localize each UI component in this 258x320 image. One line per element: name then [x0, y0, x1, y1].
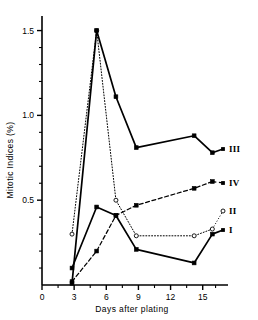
data-point-I [210, 232, 214, 236]
data-point-IV [134, 203, 138, 207]
series-line-I [72, 207, 212, 268]
x-tick-label: 3 [72, 292, 77, 302]
data-point-II [210, 227, 214, 231]
data-point-IV [95, 249, 99, 253]
series-I [70, 205, 225, 270]
series-label-IV: IV [229, 178, 240, 188]
data-point-II [134, 234, 138, 238]
data-point-III [114, 95, 118, 99]
series-label-I: I [229, 225, 233, 235]
series-line-III [72, 31, 212, 284]
x-tick-label: 0 [40, 292, 45, 302]
series-III [70, 29, 225, 286]
series-layer [70, 29, 225, 286]
data-point-I [134, 247, 138, 251]
x-tick-label: 15 [198, 292, 208, 302]
series-end-marker-IV [221, 181, 225, 185]
data-point-III [192, 134, 196, 138]
series-line-IV [72, 182, 212, 282]
data-point-II [114, 198, 118, 202]
data-point-IV [70, 280, 74, 284]
data-point-I [192, 261, 196, 265]
data-point-IV [192, 186, 196, 190]
series-leader-II [212, 211, 223, 229]
series-label-II: II [229, 206, 237, 216]
series-end-marker-II [221, 209, 225, 213]
series-IV [70, 180, 225, 284]
data-point-III [134, 146, 138, 150]
data-point-IV [114, 214, 118, 218]
x-tick-label: 9 [136, 292, 141, 302]
y-tick-label: 0.5 [22, 195, 34, 205]
y-tick-label: 1.0 [22, 110, 34, 120]
y-tick-label: 1.5 [22, 26, 34, 36]
data-point-IV [210, 180, 214, 184]
data-point-II [192, 234, 196, 238]
data-point-III [95, 29, 99, 33]
x-tick-label: 12 [166, 292, 176, 302]
data-point-II [70, 232, 74, 236]
data-point-I [95, 205, 99, 209]
series-end-marker-III [221, 147, 225, 151]
line-chart-canvas: 0.51.01.503691215 IIIIIIIV Mitotic Indic… [0, 0, 258, 320]
series-label-III: III [229, 144, 240, 154]
chart-figure: 0.51.01.503691215 IIIIIIIV Mitotic Indic… [0, 0, 258, 320]
x-tick-label: 6 [104, 292, 109, 302]
y-axis-title: Mitotic Indices (%) [5, 121, 15, 198]
series-label-layer: IIIIIIIV [229, 144, 240, 235]
series-end-marker-I [221, 228, 225, 232]
data-point-III [210, 151, 214, 155]
x-axis-title: Days after plating [95, 304, 168, 314]
